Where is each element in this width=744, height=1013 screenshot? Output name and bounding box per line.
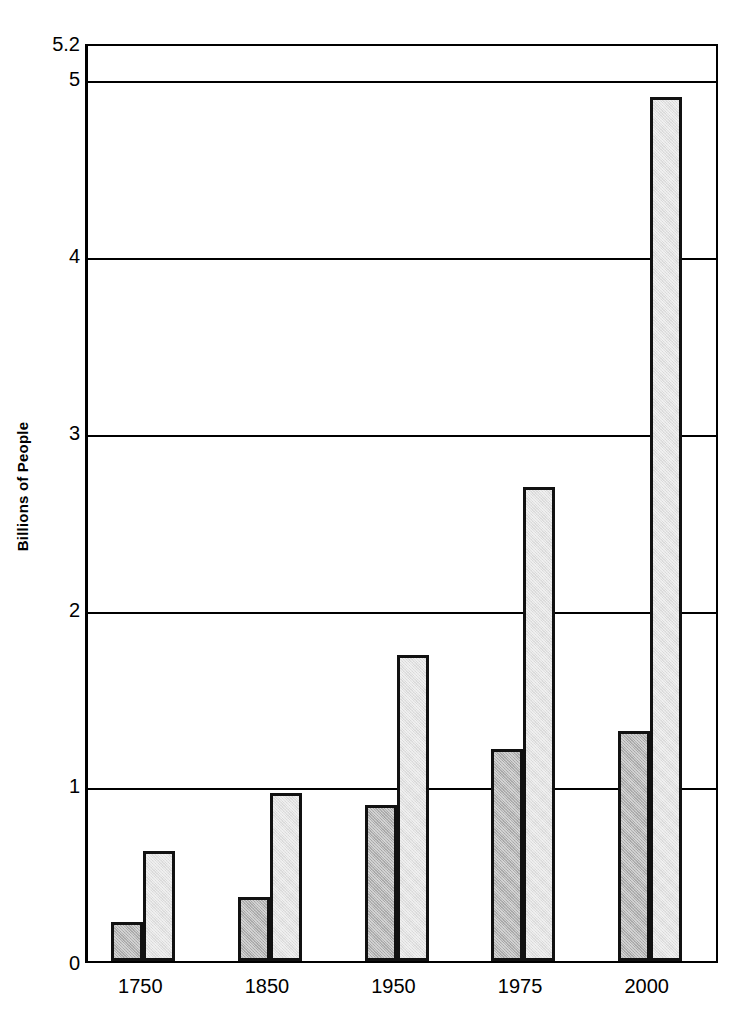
- y-tick-label: 0: [20, 952, 80, 975]
- x-tick-label: 1950: [371, 975, 416, 998]
- plot-area: [85, 44, 718, 963]
- bar: [365, 805, 397, 961]
- y-tick-label: 3: [20, 421, 80, 444]
- y-tick-label: 4: [20, 245, 80, 268]
- y-tick-label: 5.2: [20, 33, 80, 56]
- bar-group: [491, 46, 555, 961]
- x-tick-label: 1975: [498, 975, 543, 998]
- y-tick-label: 5: [20, 68, 80, 91]
- bar: [523, 487, 555, 961]
- y-axis-tick-labels: 0123455.2: [20, 0, 80, 1013]
- bar: [143, 851, 175, 961]
- bar: [491, 749, 523, 961]
- bar: [650, 97, 682, 961]
- x-axis-tick-labels: 17501850195019752000: [85, 975, 718, 1009]
- bar-group: [238, 46, 302, 961]
- x-tick-label: 1850: [245, 975, 290, 998]
- x-tick-label: 2000: [624, 975, 669, 998]
- bar-group: [365, 46, 429, 961]
- bar: [111, 922, 143, 961]
- bar-group: [111, 46, 175, 961]
- bars-layer: [88, 46, 716, 961]
- bar: [238, 897, 270, 961]
- y-tick-label: 1: [20, 775, 80, 798]
- bar: [618, 731, 650, 961]
- bar: [397, 655, 429, 961]
- x-tick-label: 1750: [118, 975, 163, 998]
- bar: [270, 793, 302, 961]
- bar-group: [618, 46, 682, 961]
- bar-chart: Billions of People 0123455.2 17501850195…: [0, 0, 744, 1013]
- y-tick-label: 2: [20, 598, 80, 621]
